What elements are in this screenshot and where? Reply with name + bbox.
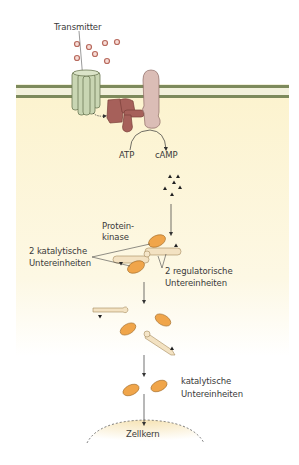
label-camp: cAMP xyxy=(155,150,178,161)
adenylyl-cyclase xyxy=(143,70,161,128)
label-catalytic-free-unit: Untereinheiten xyxy=(181,389,243,400)
cytoplasm xyxy=(16,96,289,356)
label-catalytic-unit: Untereinheiten xyxy=(29,258,91,269)
diagram-canvas xyxy=(0,0,299,465)
label-catalytic-free: katalytische xyxy=(181,376,231,387)
label-catalytic-count: 2 katalytische xyxy=(29,246,87,257)
label-protein: Protein- xyxy=(102,221,134,232)
label-nucleus: Zellkern xyxy=(126,429,160,440)
label-transmitter: Transmitter xyxy=(54,22,101,33)
camp-signaling-diagram: Transmitter ATP cAMP Protein- kinase 2 k… xyxy=(0,0,299,465)
label-atp: ATP xyxy=(119,150,134,161)
label-kinase: kinase xyxy=(102,232,129,243)
label-regulatory-unit: Untereinheiten xyxy=(165,278,227,289)
receptor-channel xyxy=(72,70,100,115)
free-catalytic-subunits xyxy=(121,378,169,398)
label-regulatory-count: 2 regulatorische xyxy=(165,266,233,277)
